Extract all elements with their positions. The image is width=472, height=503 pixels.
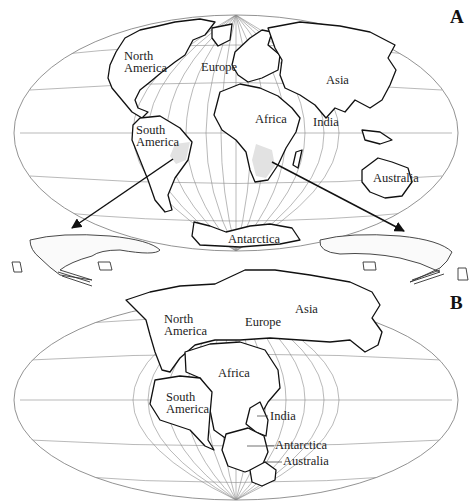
svg-text:America: America [124, 61, 167, 75]
label-africa-a: Africa [255, 112, 287, 126]
label-africa-b: Africa [218, 366, 250, 380]
label-antarctica-b: Antarctica [275, 438, 328, 452]
label-asia-a: Asia [326, 73, 349, 87]
mesosaurus-right-illustration [320, 235, 468, 284]
map-b: North America Europe Asia Africa South A… [14, 270, 458, 500]
svg-text:America: America [164, 324, 207, 338]
panel-label-a: A [450, 6, 464, 28]
label-india-b: India [270, 409, 296, 423]
mesosaurus-left-illustration [12, 235, 160, 286]
continental-drift-figure: North America Europe Asia Africa India S… [0, 0, 472, 503]
label-europe-b: Europe [245, 315, 282, 329]
map-a: North America Europe Asia Africa India S… [14, 15, 458, 251]
panel-label-b: B [450, 292, 463, 314]
svg-text:America: America [136, 135, 179, 149]
label-asia-b: Asia [295, 302, 318, 316]
label-australia-b: Australia [283, 454, 329, 468]
label-europe-a: Europe [201, 60, 238, 74]
label-australia-a: Australia [373, 171, 419, 185]
label-antarctica-a: Antarctica [228, 232, 281, 246]
svg-text:America: America [166, 402, 209, 416]
label-india-a: India [313, 115, 339, 129]
